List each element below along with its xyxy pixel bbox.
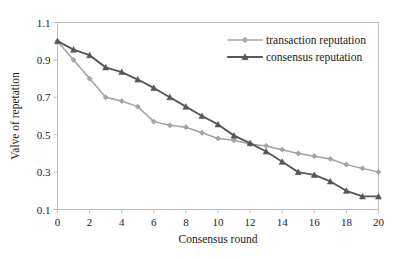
x-tick-label: 12 bbox=[245, 216, 256, 228]
y-tick-label: 0.1 bbox=[37, 204, 51, 216]
chart-figure: 0.10.30.50.70.91.1 02468101214161820 tra… bbox=[0, 0, 396, 259]
x-tick-label: 18 bbox=[341, 216, 353, 228]
y-tick-label: 0.3 bbox=[37, 166, 51, 178]
x-tick-label: 10 bbox=[213, 216, 225, 228]
x-axis-title: Consensus round bbox=[179, 233, 258, 245]
y-tick-label: 1.1 bbox=[37, 17, 51, 29]
y-tick-label: 0.5 bbox=[37, 129, 51, 141]
y-tick-label: 0.7 bbox=[37, 91, 51, 103]
x-tick-label: 8 bbox=[183, 216, 189, 228]
x-tick-label: 20 bbox=[373, 216, 385, 228]
legend-label: consensus reputation bbox=[266, 51, 362, 64]
x-tick-label: 16 bbox=[309, 216, 321, 228]
y-axis-title: Valve of repetation bbox=[9, 72, 22, 160]
line-chart: 0.10.30.50.70.91.1 02468101214161820 tra… bbox=[0, 0, 396, 259]
legend-label: transaction reputation bbox=[266, 34, 366, 47]
x-tick-label: 4 bbox=[119, 216, 125, 228]
x-tick-label: 6 bbox=[151, 216, 157, 228]
x-tick-label: 2 bbox=[87, 216, 93, 228]
x-tick-label: 14 bbox=[277, 216, 289, 228]
x-tick-label: 0 bbox=[55, 216, 61, 228]
y-tick-label: 0.9 bbox=[37, 54, 51, 66]
